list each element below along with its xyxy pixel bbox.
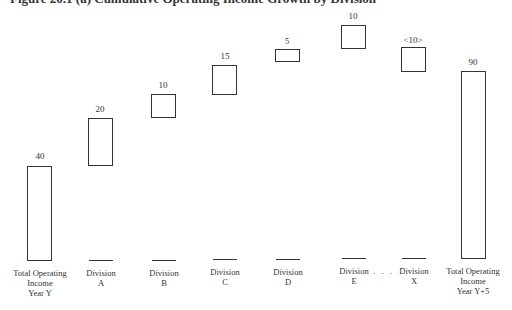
- baseline-dash: [276, 259, 300, 260]
- bar-division-e: [341, 25, 366, 49]
- bar-division-d: [275, 49, 300, 62]
- figure-title: Figure 20.1 (a) Cumulative Operating Inc…: [10, 0, 376, 7]
- baseline-dash: [152, 260, 176, 261]
- bar-total-year-y: [27, 166, 52, 261]
- value-label: <10>: [393, 35, 433, 45]
- label-line: Year Y+5: [428, 286, 512, 296]
- bar-total-year-y5: [461, 71, 486, 259]
- value-label: 5: [267, 36, 307, 46]
- baseline-dash: [213, 259, 237, 260]
- category-label: Total Operating Income Year Y+5: [428, 266, 512, 296]
- bar-division-b: [151, 94, 176, 118]
- value-label: 10: [333, 11, 373, 21]
- baseline-dash: [402, 258, 426, 259]
- value-label: 20: [80, 104, 120, 114]
- value-label: 15: [205, 51, 245, 61]
- value-label: 10: [143, 80, 183, 90]
- label-line: Total Operating: [428, 266, 512, 276]
- value-label: 90: [453, 57, 493, 67]
- baseline-dash: [342, 258, 366, 259]
- bar-division-a: [88, 118, 113, 166]
- bar-division-c: [212, 65, 237, 95]
- baseline-dash: [89, 260, 113, 261]
- label-line: Income: [428, 276, 512, 286]
- value-label: 40: [20, 151, 60, 161]
- label-line: Year Y: [0, 288, 85, 298]
- bar-division-x: [401, 47, 426, 72]
